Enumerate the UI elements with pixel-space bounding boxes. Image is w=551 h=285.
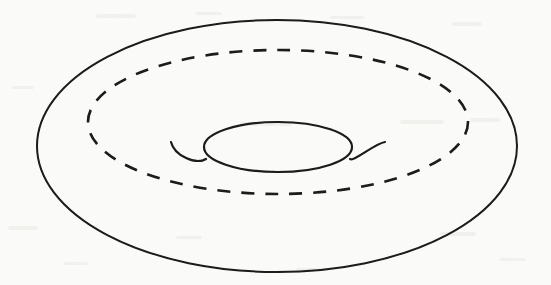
torus-drawing-svg: [0, 0, 551, 285]
torus-figure: Hand-drawn torus (donut surface) shown i…: [0, 0, 551, 285]
paper-grain-overlay: [0, 0, 551, 285]
